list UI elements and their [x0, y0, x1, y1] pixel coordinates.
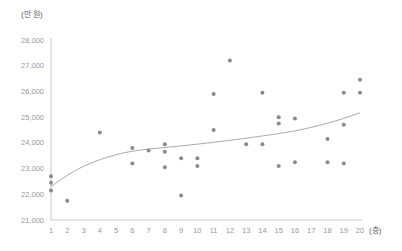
data-point [49, 181, 53, 185]
x-axis-ticks: 1234567891011121314151617181920 [49, 226, 364, 235]
x-tick-label: 2 [65, 226, 69, 235]
x-tick-label: 16 [291, 226, 299, 235]
y-tick-label: 26,000 [21, 87, 44, 96]
data-point [342, 161, 346, 165]
x-tick-label: 1 [49, 226, 53, 235]
data-point [260, 91, 264, 95]
y-tick-label: 27,000 [21, 61, 44, 70]
y-tick-label: 28,000 [21, 36, 44, 45]
data-points [49, 59, 362, 203]
data-point [325, 160, 329, 164]
y-axis-ticks: 21,00022,00023,00024,00025,00026,00027,0… [21, 36, 44, 225]
y-tick-label: 22,000 [21, 190, 44, 199]
x-tick-label: 8 [163, 226, 167, 235]
scatter-chart: (만 원) 21,00022,00023,00024,00025,00026,0… [0, 0, 402, 251]
x-tick-label: 19 [340, 226, 348, 235]
data-point [260, 142, 264, 146]
x-tick-label: 10 [193, 226, 201, 235]
x-tick-label: 4 [98, 226, 102, 235]
x-tick-label: 13 [242, 226, 250, 235]
data-point [293, 116, 297, 120]
y-tick-label: 23,000 [21, 164, 44, 173]
data-point [277, 122, 281, 126]
data-point [342, 91, 346, 95]
x-tick-label: 15 [275, 226, 283, 235]
x-tick-label: 6 [130, 226, 134, 235]
data-point [147, 149, 151, 153]
data-point [163, 150, 167, 154]
x-tick-label: 5 [114, 226, 118, 235]
chart-canvas: (만 원) 21,00022,00023,00024,00025,00026,0… [0, 0, 402, 251]
x-tick-label: 20 [356, 226, 364, 235]
data-point [358, 91, 362, 95]
data-point [65, 199, 69, 203]
data-point [179, 156, 183, 160]
x-axis-unit-label: (층) [369, 226, 382, 235]
y-axis-unit-label: (만 원) [21, 10, 43, 19]
data-point [325, 137, 329, 141]
x-tick-label: 7 [146, 226, 150, 235]
y-tick-label: 24,000 [21, 138, 44, 147]
data-point [49, 174, 53, 178]
x-tick-label: 3 [81, 226, 85, 235]
x-tick-label: 12 [226, 226, 234, 235]
x-tick-label: 17 [307, 226, 315, 235]
data-point [277, 115, 281, 119]
data-point [293, 160, 297, 164]
data-point [163, 142, 167, 146]
data-point [244, 142, 248, 146]
trend-line [51, 113, 360, 187]
data-point [195, 164, 199, 168]
data-point [358, 78, 362, 82]
data-point [212, 92, 216, 96]
data-point [228, 59, 232, 63]
x-tick-label: 9 [179, 226, 183, 235]
y-tick-label: 21,000 [21, 216, 44, 225]
y-tick-label: 25,000 [21, 113, 44, 122]
data-point [212, 128, 216, 132]
x-tick-label: 14 [258, 226, 266, 235]
x-tick-label: 18 [323, 226, 331, 235]
data-point [163, 165, 167, 169]
data-point [342, 123, 346, 127]
data-point [179, 194, 183, 198]
data-point [130, 161, 134, 165]
data-point [195, 156, 199, 160]
x-tick-label: 11 [210, 226, 218, 235]
data-point [130, 146, 134, 150]
data-point [98, 131, 102, 135]
data-point [49, 188, 53, 192]
data-point [277, 164, 281, 168]
